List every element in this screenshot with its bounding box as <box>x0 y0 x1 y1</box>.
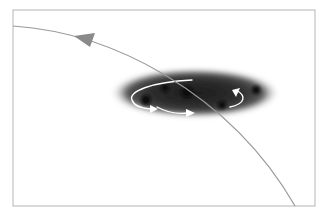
trajectory-arrowhead-icon <box>74 33 95 47</box>
dense-spot <box>141 95 151 105</box>
dense-spot <box>252 86 260 94</box>
orbit-cloud-diagram <box>0 0 325 212</box>
trajectory-curve <box>13 26 295 206</box>
trajectory <box>13 26 295 206</box>
dense-spot <box>218 101 226 109</box>
diagram-canvas <box>0 0 325 212</box>
dense-spot <box>161 84 169 92</box>
